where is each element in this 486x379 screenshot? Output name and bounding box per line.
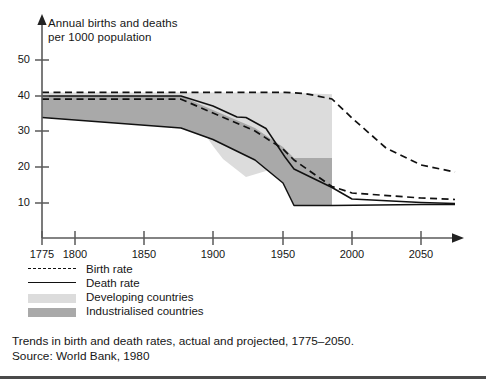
legend-label-death-rate: Death rate [86,277,140,289]
y-axis-arrow-icon [37,14,46,25]
x-tick-label-1800: 1800 [53,248,97,260]
y-tick-label-40: 40 [6,89,30,101]
caption-line-2: Source: World Bank, 1980 [12,349,472,364]
legend-item-birth-rate: Birth rate [28,262,268,276]
x-tick-label-1850: 1850 [122,248,166,260]
legend-label-birth-rate: Birth rate [86,263,133,275]
x-tick-label-1900: 1900 [191,248,235,260]
figure-container: Annual births and deaths per 1000 popula… [0,0,486,379]
legend-label-industrialised-countries: Industrialised countries [86,305,204,317]
y-tick-label-30: 30 [6,124,30,136]
legend-item-developing-countries: Developing countries [28,290,268,304]
y-tick-label-50: 50 [6,53,30,65]
legend-label-developing-countries: Developing countries [86,291,193,303]
dashed-line-icon [28,263,76,275]
caption-line-1: Trends in birth and death rates, actual … [12,334,472,349]
solid-line-icon [28,277,76,289]
y-tick-label-10: 10 [6,196,30,208]
chart-legend: Birth rate Death rate Developing countri… [28,262,268,318]
x-tick-label-2050: 2050 [399,248,443,260]
y-axis-title: Annual births and deaths per 1000 popula… [48,16,178,44]
legend-item-death-rate: Death rate [28,276,268,290]
x-tick-label-1950: 1950 [261,248,305,260]
figure-caption: Trends in birth and death rates, actual … [12,334,472,364]
legend-item-industrialised-countries: Industrialised countries [28,304,268,318]
y-tick-label-20: 20 [6,160,30,172]
dark-swatch-icon [28,308,76,317]
light-swatch-icon [28,294,76,303]
x-tick-label-2000: 2000 [330,248,374,260]
x-axis-arrow-icon [452,233,464,243]
chart-canvas [0,0,486,379]
